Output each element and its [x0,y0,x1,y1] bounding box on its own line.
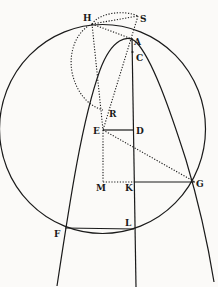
label-S: S [140,14,147,24]
axis-line [132,38,136,287]
label-C: C [136,53,143,63]
dotted-HS [92,16,138,24]
label-R: R [109,109,117,119]
dotted-HA [92,24,132,39]
label-E: E [93,126,100,136]
dotted-HE [92,24,103,130]
geometry-diagram: H S A C R E D M K G L F [0,0,218,287]
label-F: F [54,229,61,239]
segment-FL [65,228,134,229]
label-K: K [125,183,134,193]
label-G: G [196,179,204,189]
label-L: L [125,218,132,228]
label-D: D [136,126,144,136]
label-H: H [83,13,92,23]
label-A: A [133,37,142,47]
label-M: M [96,183,106,193]
point-C [131,51,133,53]
dotted-EG [103,130,195,182]
